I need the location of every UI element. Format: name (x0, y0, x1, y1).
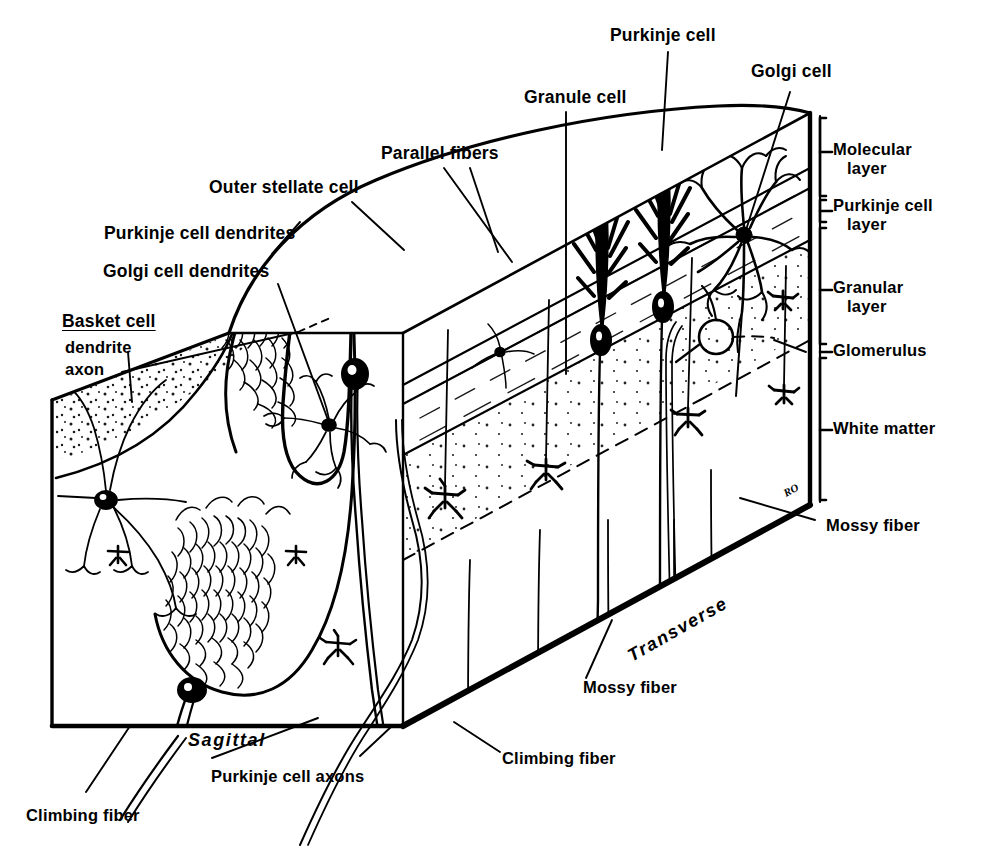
label-climbing-fiber-left: Climbing fiber (26, 806, 140, 824)
label-basket-cell-axon: axon (65, 360, 104, 378)
molecular-layer-line2: layer (833, 159, 887, 178)
label-outer-stellate-cell: Outer stellate cell (209, 178, 359, 198)
label-mossy-fiber-bottom: Mossy fiber (583, 678, 677, 696)
granular-layer-line1: Granular (833, 278, 903, 296)
label-purkinje-cell: Purkinje cell (610, 26, 716, 46)
purkinje-layer-line2: layer (833, 215, 887, 234)
label-sagittal: Sagittal (188, 730, 266, 750)
cerebellar-cortex-figure: RO Purkinje cell Golgi cell Granule cell… (0, 0, 993, 868)
label-glomerulus: Glomerulus (833, 341, 927, 359)
label-golgi-cell-dendrites: Golgi cell dendrites (103, 262, 269, 282)
label-parallel-fibers: Parallel fibers (381, 144, 499, 164)
label-molecular-layer: Molecularlayer (833, 140, 912, 179)
label-purkinje-cell-layer: Purkinje celllayer (833, 196, 933, 235)
label-white-matter: White matter (833, 419, 935, 437)
label-purkinje-cell-axons: Purkinje cell axons (211, 767, 364, 785)
purkinje-layer-line1: Purkinje cell (833, 196, 933, 214)
label-golgi-cell: Golgi cell (751, 62, 832, 82)
granular-layer-line2: layer (833, 297, 887, 316)
label-granule-cell: Granule cell (524, 88, 627, 108)
molecular-layer-line1: Molecular (833, 140, 912, 158)
label-climbing-fiber-right: Climbing fiber (502, 749, 616, 767)
label-basket-cell: Basket cell (62, 312, 156, 332)
label-purkinje-cell-dendrites: Purkinje cell dendrites (104, 224, 295, 244)
label-basket-cell-dendrite: dendrite (65, 338, 132, 356)
purkinje-dendritic-tree-lower (164, 497, 290, 688)
label-mossy-fiber-right: Mossy fiber (826, 516, 920, 534)
artist-signature: RO (780, 481, 800, 499)
layer-brackets (820, 118, 832, 500)
label-granular-layer: Granularlayer (833, 278, 903, 317)
outer-stellate-cells-transverse (472, 324, 534, 388)
